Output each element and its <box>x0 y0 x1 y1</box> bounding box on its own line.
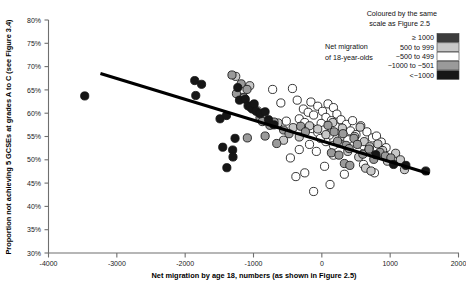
y-axis-title: Proportion not achieving 5 GCSEs at grad… <box>4 19 13 255</box>
legend-headline-line1: Coloured by the same <box>367 9 437 18</box>
legend-title-line1: Net migration <box>325 42 368 51</box>
data-point <box>346 161 354 169</box>
x-tick-label: 0 <box>320 260 324 267</box>
x-tick-label: 1000 <box>382 260 398 267</box>
y-tick-label: 50% <box>27 156 41 163</box>
data-point <box>335 151 343 159</box>
legend-headline-line2: scale as Figure 2.5 <box>369 19 430 28</box>
data-point <box>282 117 290 125</box>
data-point <box>192 91 200 99</box>
x-axis: -4000-3000-2000-1000010002000 <box>40 253 466 267</box>
legend-label-m500_to_499: −500 to 499 <box>396 52 434 61</box>
data-point <box>288 84 296 92</box>
data-point <box>243 134 251 142</box>
y-axis: 30%35%40%45%50%55%60%65%70%75%80% <box>27 17 49 257</box>
y-tick-label: 80% <box>27 17 41 24</box>
data-point <box>353 140 361 148</box>
legend-entries: ≥ 1000500 to 999−500 to 499−1000 to −501… <box>388 33 459 79</box>
legend-swatch-m500_to_499 <box>437 52 459 61</box>
data-point <box>322 131 330 139</box>
data-point <box>365 145 373 153</box>
y-tick-label: 30% <box>27 250 41 257</box>
legend-swatch-ge_1000 <box>437 34 459 43</box>
data-point <box>339 130 347 138</box>
legend: Coloured by the same scale as Figure 2.5… <box>325 9 459 80</box>
x-tick-label: -2000 <box>176 260 194 267</box>
data-point <box>292 172 300 180</box>
data-point <box>367 167 375 175</box>
data-point <box>324 121 332 129</box>
y-tick-label: 65% <box>27 87 41 94</box>
y-tick-label: 75% <box>27 40 41 47</box>
data-point <box>286 154 294 162</box>
x-tick-label: 2000 <box>451 260 466 267</box>
data-point <box>243 85 251 93</box>
data-point <box>261 132 269 140</box>
data-point <box>310 111 318 119</box>
y-tick-label: 45% <box>27 180 41 187</box>
data-point <box>273 139 281 147</box>
data-point <box>293 96 301 104</box>
legend-label-ge_1000: ≥ 1000 <box>412 33 434 42</box>
data-point <box>229 153 237 161</box>
data-point <box>250 100 258 108</box>
data-point <box>310 187 318 195</box>
x-axis-ticks: -4000-3000-2000-1000010002000 <box>40 253 466 267</box>
y-tick-label: 70% <box>27 63 41 70</box>
data-point <box>197 80 205 88</box>
data-point <box>295 145 303 153</box>
data-point <box>234 83 242 91</box>
legend-label-m1000_to_m501: −1000 to −501 <box>388 61 434 70</box>
data-points-layer <box>81 71 430 196</box>
data-point <box>356 123 364 131</box>
data-point <box>326 180 334 188</box>
data-point <box>219 143 227 151</box>
y-tick-label: 60% <box>27 110 41 117</box>
chart-canvas: 30%35%40%45%50%55%60%65%70%75%80% -4000-… <box>0 0 466 283</box>
data-point <box>305 140 313 148</box>
data-point <box>312 147 320 155</box>
data-point <box>348 117 356 125</box>
scatter-chart: 30%35%40%45%50%55%60%65%70%75%80% -4000-… <box>0 0 466 283</box>
legend-swatch-lt_m1000 <box>437 71 459 80</box>
legend-swatch-500_to_999 <box>437 43 459 52</box>
legend-title-line2: of 18-year-olds <box>325 53 373 62</box>
data-point <box>261 108 269 116</box>
x-axis-title: Net migration by age 18, numbers (as sho… <box>152 271 357 280</box>
data-point <box>327 149 335 157</box>
data-point <box>277 99 285 107</box>
data-point <box>330 128 338 136</box>
data-point <box>81 92 89 100</box>
y-tick-label: 40% <box>27 203 41 210</box>
x-tick-label: -1000 <box>245 260 263 267</box>
data-point <box>228 71 236 79</box>
y-axis-ticks: 30%35%40%45%50%55%60%65%70%75%80% <box>27 17 49 257</box>
y-tick-label: 35% <box>27 226 41 233</box>
data-point <box>314 125 322 133</box>
data-point <box>223 164 231 172</box>
x-tick-label: -4000 <box>40 260 58 267</box>
data-point <box>320 162 328 170</box>
trendline <box>100 74 429 174</box>
y-tick-label: 55% <box>27 133 41 140</box>
data-point <box>231 134 239 142</box>
legend-label-lt_m1000: <−1000 <box>410 71 434 80</box>
data-point <box>301 169 309 177</box>
x-tick-label: -3000 <box>108 260 126 267</box>
legend-label-500_to_999: 500 to 999 <box>400 43 434 52</box>
data-point <box>340 170 348 178</box>
legend-swatch-m1000_to_m501 <box>437 61 459 70</box>
data-point <box>269 85 277 93</box>
